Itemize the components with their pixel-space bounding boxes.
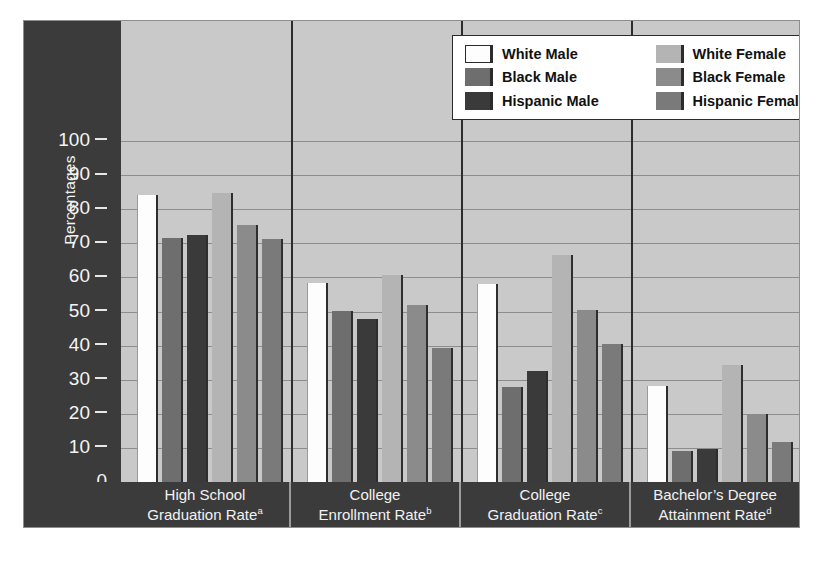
x-axis-label-line2: Graduation Ratec bbox=[488, 505, 603, 525]
x-axis-label: CollegeEnrollment Rateb bbox=[291, 482, 461, 527]
x-axis-label: High SchoolGraduation Ratea bbox=[121, 482, 291, 527]
x-axis-label-line1: High School bbox=[165, 485, 246, 505]
legend-label: White Female bbox=[693, 46, 786, 62]
x-axis-label-line1: Bachelor’s Degree bbox=[653, 485, 777, 505]
y-tick-30: 30 bbox=[69, 369, 107, 388]
bar bbox=[502, 387, 523, 482]
y-tick-60: 60 bbox=[69, 266, 107, 285]
y-tick-40: 40 bbox=[69, 335, 107, 354]
bar-group bbox=[291, 21, 461, 482]
bar bbox=[212, 193, 233, 482]
legend-swatch bbox=[465, 92, 493, 110]
y-tick-100: 100 bbox=[58, 130, 107, 149]
legend-swatch bbox=[656, 92, 684, 110]
bar bbox=[477, 284, 498, 482]
bar bbox=[747, 414, 768, 482]
legend-item: Hispanic Male bbox=[461, 89, 646, 113]
y-tick-10: 10 bbox=[69, 437, 107, 456]
legend-label: White Male bbox=[502, 46, 578, 62]
x-axis-label-footnote: c bbox=[598, 505, 603, 516]
x-axis-label-line2: Graduation Ratea bbox=[147, 505, 262, 525]
legend-item: Black Male bbox=[461, 66, 646, 90]
x-axis-label-line2: Enrollment Rateb bbox=[319, 505, 432, 525]
x-axis-strip-pad bbox=[24, 482, 121, 527]
x-axis-label-footnote: b bbox=[426, 505, 431, 516]
bar bbox=[647, 386, 668, 482]
bar bbox=[602, 344, 623, 482]
bar bbox=[672, 451, 693, 482]
bar bbox=[262, 239, 283, 482]
bar bbox=[527, 371, 548, 482]
y-tick-90: 90 bbox=[69, 164, 107, 183]
plot-area: White MaleWhite FemaleBlack MaleBlack Fe… bbox=[121, 21, 799, 482]
x-axis-label-line2: Attainment Rated bbox=[659, 505, 772, 525]
bar bbox=[432, 348, 453, 482]
bar bbox=[162, 238, 183, 482]
bar bbox=[552, 255, 573, 482]
bar bbox=[307, 283, 328, 482]
x-axis-label-line1: College bbox=[520, 485, 571, 505]
legend-item: Black Female bbox=[652, 66, 800, 90]
bar bbox=[332, 311, 353, 482]
legend-label: Black Male bbox=[502, 69, 577, 85]
bar bbox=[772, 442, 793, 482]
legend-swatch bbox=[465, 68, 493, 86]
x-axis-label-footnote: a bbox=[257, 505, 262, 516]
bar bbox=[722, 365, 743, 482]
bar-group bbox=[121, 21, 291, 482]
chart-figure: Percentages 1009080706050403020100 White… bbox=[23, 20, 800, 528]
bar bbox=[697, 449, 718, 482]
bar bbox=[382, 275, 403, 482]
bar bbox=[407, 305, 428, 482]
x-axis-label: Bachelor’s DegreeAttainment Rated bbox=[631, 482, 799, 527]
x-axis-label-line1: College bbox=[350, 485, 401, 505]
y-tick-80: 80 bbox=[69, 198, 107, 217]
legend-item: White Female bbox=[652, 42, 800, 66]
legend-swatch bbox=[656, 45, 684, 63]
y-tick-70: 70 bbox=[69, 232, 107, 251]
y-tick-50: 50 bbox=[69, 301, 107, 320]
bar bbox=[357, 319, 378, 482]
y-axis-band: Percentages 1009080706050403020100 bbox=[24, 21, 121, 482]
x-axis-label: CollegeGraduation Ratec bbox=[461, 482, 631, 527]
legend-label: Hispanic Female bbox=[693, 93, 800, 109]
x-axis-labels: High SchoolGraduation RateaCollegeEnroll… bbox=[121, 482, 799, 527]
legend-item: White Male bbox=[461, 42, 646, 66]
legend-swatch bbox=[465, 45, 493, 63]
bar bbox=[137, 195, 158, 482]
bar bbox=[187, 235, 208, 482]
x-axis-label-footnote: d bbox=[766, 505, 771, 516]
legend-item: Hispanic Female bbox=[652, 89, 800, 113]
legend-swatch bbox=[656, 68, 684, 86]
bar bbox=[237, 225, 258, 482]
chart-legend: White MaleWhite FemaleBlack MaleBlack Fe… bbox=[452, 35, 799, 120]
legend-label: Black Female bbox=[693, 69, 786, 85]
legend-label: Hispanic Male bbox=[502, 93, 599, 109]
y-tick-20: 20 bbox=[69, 403, 107, 422]
bar bbox=[577, 310, 598, 482]
